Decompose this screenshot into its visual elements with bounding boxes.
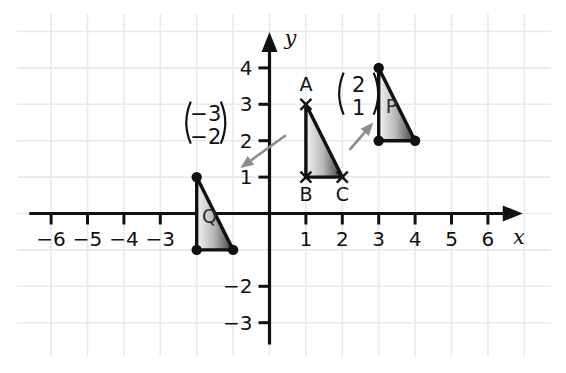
vertex-label-C: C [336, 183, 349, 205]
x-tick-label: 2 [336, 227, 349, 251]
y-tick-label: 4 [240, 56, 253, 80]
triangle-label-Q: Q [202, 205, 217, 227]
vector-notation-translation-to-Q: −3−2 [186, 102, 225, 149]
background-grid [17, 14, 551, 356]
axes [29, 32, 522, 344]
x-tick-label: −3 [146, 227, 175, 251]
y-tick-label: 2 [240, 129, 253, 153]
x-axis-arrowhead [503, 206, 523, 222]
y-tick-label: −2 [223, 274, 252, 298]
y-axis-label: y [284, 26, 298, 50]
vertex-dot [192, 245, 202, 255]
coordinate-plane-svg: −6−5−4−31234564321−2−3xy21−3−2ABCPQ [0, 0, 566, 373]
vector-top-component: 2 [352, 73, 365, 97]
triangle-label-P: P [386, 95, 397, 117]
x-tick-label: 4 [409, 227, 422, 251]
y-tick-label: 3 [240, 92, 253, 116]
vector-notation-translation-to-P: 21 [339, 73, 378, 120]
x-tick-label: 5 [445, 227, 458, 251]
y-tick-label: −3 [223, 311, 252, 335]
y-tick-label: 1 [240, 165, 253, 189]
vector-right-bracket [221, 102, 226, 144]
vertex-dot [228, 245, 238, 255]
vertex-dot [410, 136, 420, 146]
vertex-dot [192, 172, 202, 182]
x-tick-label: 3 [372, 227, 385, 251]
coordinate-diagram: −6−5−4−31234564321−2−3xy21−3−2ABCPQ [0, 0, 566, 373]
vector-bottom-component: 1 [352, 96, 365, 120]
x-tick-label: −4 [109, 227, 138, 251]
x-tick-label: −5 [73, 227, 102, 251]
vertex-dot [374, 136, 384, 146]
vector-top-component: −3 [190, 102, 221, 126]
x-tick-label: 1 [300, 227, 313, 251]
vertex-label-A: A [299, 73, 312, 95]
y-axis-arrowhead [262, 32, 278, 52]
x-tick-label: −6 [36, 227, 65, 251]
vector-bottom-component: −2 [190, 125, 221, 149]
vertex-label-B: B [299, 183, 312, 205]
vertex-dot [374, 63, 384, 73]
x-axis-label: x [513, 225, 525, 249]
x-tick-label: 6 [482, 227, 495, 251]
